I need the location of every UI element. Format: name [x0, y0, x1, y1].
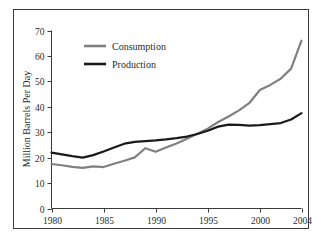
x-tick-label: 1995	[199, 216, 218, 226]
y-tick-label: 60	[35, 52, 45, 62]
y-tick-label: 50	[35, 77, 45, 87]
x-tick-marks	[53, 209, 303, 213]
y-tick-label: 20	[35, 154, 45, 164]
x-tick-label: 1980	[43, 216, 62, 226]
y-tick-labels: 010203040506070	[35, 27, 45, 215]
x-tick-labels: 198019851990199520002004	[43, 216, 312, 226]
chart-legend: ConsumptionProduction	[84, 41, 166, 70]
x-tick-label: 2000	[251, 216, 270, 226]
y-tick-label: 10	[35, 179, 45, 189]
line-chart: 010203040506070 198019851990199520002004…	[0, 0, 332, 248]
y-axis-title: Million Barrels Per Day	[21, 71, 32, 167]
x-tick-label: 1990	[147, 216, 166, 226]
y-tick-label: 30	[35, 128, 45, 138]
y-tick-marks	[48, 32, 52, 210]
series-line-production	[52, 113, 302, 158]
legend-label-production: Production	[112, 59, 156, 70]
legend-label-consumption: Consumption	[112, 41, 166, 52]
chart-figure: 010203040506070 198019851990199520002004…	[0, 0, 332, 248]
series-line-consumption	[52, 41, 302, 168]
data-series-group	[52, 41, 302, 168]
y-tick-label: 70	[35, 27, 45, 37]
x-tick-label: 2004	[293, 216, 312, 226]
x-tick-label: 1985	[95, 216, 114, 226]
chart-axes	[52, 31, 302, 209]
y-tick-label: 40	[35, 103, 45, 113]
y-tick-label: 0	[40, 205, 45, 215]
